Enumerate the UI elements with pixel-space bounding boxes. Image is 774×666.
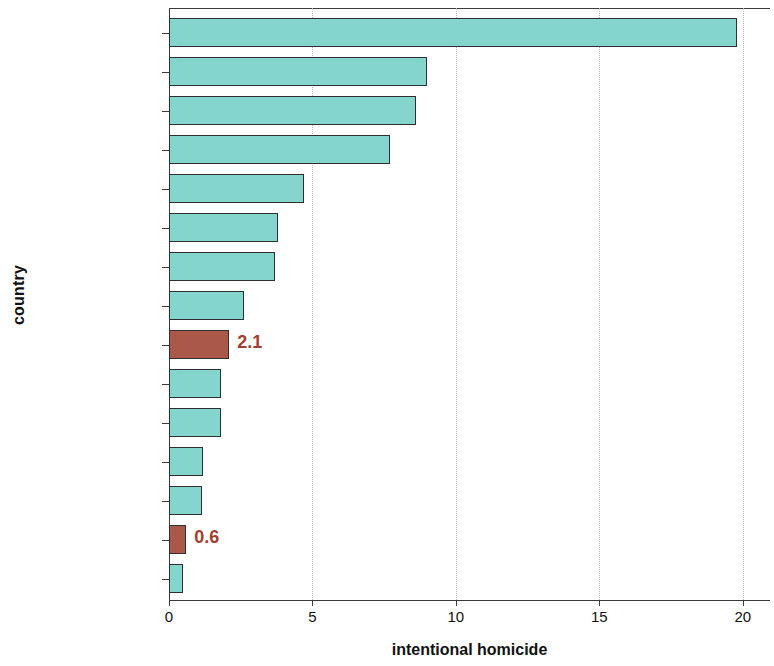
bar[interactable] (169, 57, 427, 86)
bar[interactable] (169, 96, 416, 125)
bar[interactable] (169, 174, 304, 203)
category-tick (162, 579, 169, 580)
bar-row: Japan (2000) (169, 560, 770, 599)
x-tick-15 (599, 600, 600, 606)
bar-value-label: 0.6 (194, 527, 219, 548)
x-tick-label-5: 5 (282, 608, 342, 625)
x-tick-0 (169, 600, 170, 606)
category-tick (162, 501, 169, 502)
category-tick (162, 462, 169, 463)
plot-top-border (169, 8, 770, 9)
bar[interactable] (169, 447, 203, 476)
x-tick-20 (743, 600, 744, 606)
bar[interactable] (169, 408, 221, 437)
category-tick (162, 189, 169, 190)
bar[interactable] (169, 369, 221, 398)
bar-row: USA (2000) (169, 170, 770, 209)
bar[interactable] (169, 135, 390, 164)
category-tick (162, 111, 169, 112)
category-tick (162, 267, 169, 268)
bar-row: Malaysia (2000) (169, 287, 770, 326)
bar-row: mainland China (1997)2.1 (169, 326, 770, 365)
category-tick (162, 540, 169, 541)
x-axis-title: intentional homicide (169, 641, 770, 659)
x-tick-5 (312, 600, 313, 606)
bar-row: India (1999) (169, 209, 770, 248)
y-axis-title: country (10, 250, 28, 340)
bar-row: Australia (2000) (169, 404, 770, 443)
category-tick (162, 384, 169, 385)
bar-row: Singapore (2000) (169, 482, 770, 521)
bar[interactable] (169, 486, 202, 515)
category-tick (162, 72, 169, 73)
bar[interactable] (169, 291, 244, 320)
category-tick (162, 228, 169, 229)
bar[interactable] (169, 213, 278, 242)
category-tick (162, 306, 169, 307)
x-tick-label-0: 0 (139, 608, 199, 625)
category-tick (162, 150, 169, 151)
bar[interactable] (169, 330, 229, 359)
x-axis-line (169, 600, 770, 601)
bar-row: Philippines (2000) (169, 131, 770, 170)
plot-area: Russian Federation (2000)Ukraine (2000)T… (169, 8, 770, 600)
bar-row: Ukraine (2000) (169, 53, 770, 92)
bar-row: Russian Federation (2000) (169, 14, 770, 53)
category-tick (162, 345, 169, 346)
bar[interactable] (169, 18, 737, 47)
bar-value-label: 2.1 (237, 332, 262, 353)
x-tick-label-20: 20 (713, 608, 773, 625)
bar-chart: country Russian Federation (2000)Ukraine… (0, 0, 774, 666)
x-tick-label-15: 15 (569, 608, 629, 625)
bar[interactable] (169, 525, 186, 554)
x-tick-label-10: 10 (426, 608, 486, 625)
x-tick-10 (456, 600, 457, 606)
bar-row: Indonesia (2000) (169, 443, 770, 482)
bar-row: Macau (1994) (169, 248, 770, 287)
category-tick (162, 33, 169, 34)
bar[interactable] (169, 564, 183, 593)
bar-row: Hong Kong (2000)0.6 (169, 521, 770, 560)
bar-row: Thailand (2000) (169, 92, 770, 131)
bar[interactable] (169, 252, 275, 281)
bar-row: England & Wales (2000) (169, 365, 770, 404)
category-tick (162, 423, 169, 424)
